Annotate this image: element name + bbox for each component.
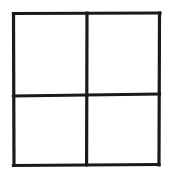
pane-top-right[interactable]: [90, 16, 157, 91]
pane-top-left[interactable]: [16, 16, 84, 93]
frame-left-line: [14, 14, 15, 166]
horizontal-divider-line: [14, 94, 160, 96]
frame-right-line: [159, 13, 160, 165]
figure-canvas: [0, 0, 172, 176]
pane-bottom-right[interactable]: [90, 97, 157, 162]
pane-bottom-left[interactable]: [16, 99, 84, 162]
